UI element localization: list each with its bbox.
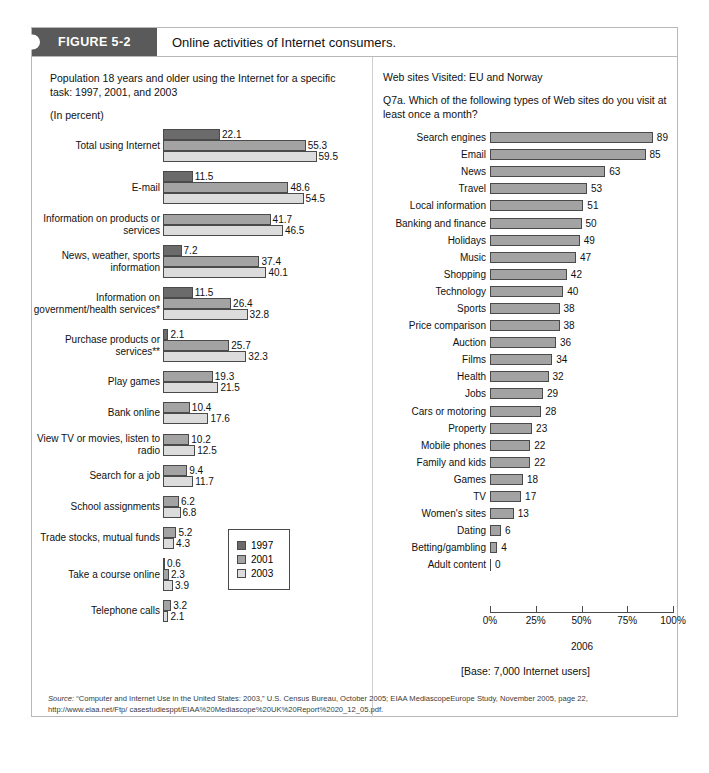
right-chart-category-label: Family and kids [373,457,490,468]
figure-tag: FIGURE 5-2 [32,28,157,56]
axis-tick [627,606,628,613]
left-chart-bars: 41.746.5 [163,214,363,236]
source-note: Source: “Computer and Internet Use in th… [48,693,662,715]
left-chart-category-label: News, weather, sports information [32,250,163,273]
left-chart-bar-row: 10.4 [163,402,363,413]
left-chart-bar-row: 54.5 [163,193,363,204]
left-chart-bar-row: 11.5 [163,287,363,298]
left-chart-bar-row: 21.5 [163,382,363,393]
right-chart-bar [490,218,582,229]
right-chart-category-label: Cars or motoring [373,406,490,417]
axis-tick [582,606,583,613]
left-chart-bar [163,476,193,487]
left-chart-bar [163,245,182,256]
left-chart-value-label: 7.2 [182,245,198,256]
left-chart-value-label: 6.8 [181,507,197,518]
right-chart-bar [490,440,530,451]
left-chart-bar-row: 11.7 [163,476,363,487]
right-chart-row: Sports38 [373,300,678,317]
left-chart-bar [163,193,304,204]
right-chart-row: News63 [373,163,678,180]
left-chart-group: E-mail11.548.654.5 [32,171,372,204]
left-chart-bars: 10.417.6 [163,402,363,424]
legend-label: 2003 [251,568,273,579]
left-chart-bar-row: 6.8 [163,507,363,518]
left-chart-value-label: 17.6 [208,413,229,424]
right-chart-bar [490,491,521,502]
right-chart-bar [490,286,563,297]
left-chart-bar-row: 3.2 [163,600,363,611]
left-chart-value-label: 11.5 [193,171,214,182]
left-chart-value-label: 11.7 [193,476,214,487]
left-chart-value-label: 40.1 [266,267,287,278]
left-chart-category-label: Take a course online [32,569,163,581]
source-line-2: casestudiesppt/EIAA%20Mediascope%20UK%20… [129,705,383,714]
right-bar-chart: Search engines89Email85News63Travel53Loc… [373,129,678,573]
left-chart-heading: Population 18 years and older using the … [50,71,360,99]
right-chart-row: Family and kids22 [373,454,678,471]
left-chart-category-label: Information on government/health service… [32,292,163,315]
right-chart-row: Holidays49 [373,232,678,249]
right-chart-category-label: Betting/gambling [373,542,490,553]
right-chart-category-label: Mobile phones [373,440,490,451]
figure-tag-label: FIGURE 5-2 [58,35,131,49]
right-chart-value-label: 6 [501,525,511,536]
left-chart-panel: Population 18 years and older using the … [32,57,372,717]
right-chart-bar [490,508,514,519]
left-chart-group: Information on products or services41.74… [32,213,372,236]
left-chart-bars: 19.321.5 [163,371,363,393]
axis-tick-label: 0% [483,615,497,626]
left-chart-bar [163,600,171,611]
right-chart-value-label: 49 [580,235,595,246]
right-chart-row: TV17 [373,488,678,505]
left-chart-group: Purchase products or services**2.125.732… [32,329,372,362]
right-chart-bar [490,388,543,399]
right-chart-category-label: Technology [373,286,490,297]
left-chart-group: News, weather, sports information7.237.4… [32,245,372,278]
right-chart-bar [490,235,580,246]
right-chart-value-label: 4 [497,542,507,553]
left-chart-bar [163,507,181,518]
right-chart-row: Games18 [373,471,678,488]
left-chart-bar [163,351,246,362]
right-chart-value-label: 53 [587,183,602,194]
left-chart-bar-row: 55.3 [163,140,363,151]
left-chart-value-label: 10.4 [190,402,211,413]
left-chart-category-label: Search for a job [32,470,163,482]
left-chart-value-label: 32.3 [246,351,267,362]
left-chart-category-label: Play games [32,376,163,388]
right-chart-heading: Web sites Visited: EU and Norway [383,71,543,83]
right-chart-category-label: Dating [373,525,490,536]
right-chart-category-label: Games [373,474,490,485]
left-chart-subheading: (In percent) [50,109,104,121]
right-chart-value-label: 38 [560,303,575,314]
right-chart-row: Jobs29 [373,385,678,402]
legend-label: 1997 [251,540,273,551]
left-chart-category-label: E-mail [32,182,163,194]
left-chart-value-label: 37.4 [259,256,280,267]
right-chart-value-label: 38 [560,320,575,331]
right-chart-bar [490,423,532,434]
left-chart-bar-row: 59.5 [163,151,363,162]
right-chart-bar [490,354,552,365]
right-chart-category-label: Adult content [373,559,490,570]
left-chart-category-label: Telephone calls [32,605,163,617]
right-chart-row: Women's sites13 [373,505,678,522]
right-chart-row: Mobile phones22 [373,437,678,454]
right-chart-value-label: 40 [563,286,578,297]
right-chart-row: Local information51 [373,197,678,214]
left-bar-chart: Total using Internet22.155.359.5E-mail11… [32,129,372,631]
legend-item: 1997 [237,540,281,551]
chart-legend: 199720012003 [228,529,290,590]
right-chart-row: Price comparison38 [373,317,678,334]
right-chart-row: Betting/gambling4 [373,539,678,556]
axis-tick-label: 75% [617,615,637,626]
left-chart-bars: 11.548.654.5 [163,171,363,204]
left-chart-bar-row: 32.3 [163,351,363,362]
left-chart-value-label: 2.1 [168,611,184,622]
right-chart-category-label: Local information [373,200,490,211]
right-chart-value-label: 32 [549,371,564,382]
legend-item: 2001 [237,554,281,565]
figure-title: Online activities of Internet consumers. [157,28,677,56]
left-chart-category-label: School assignments [32,501,163,513]
